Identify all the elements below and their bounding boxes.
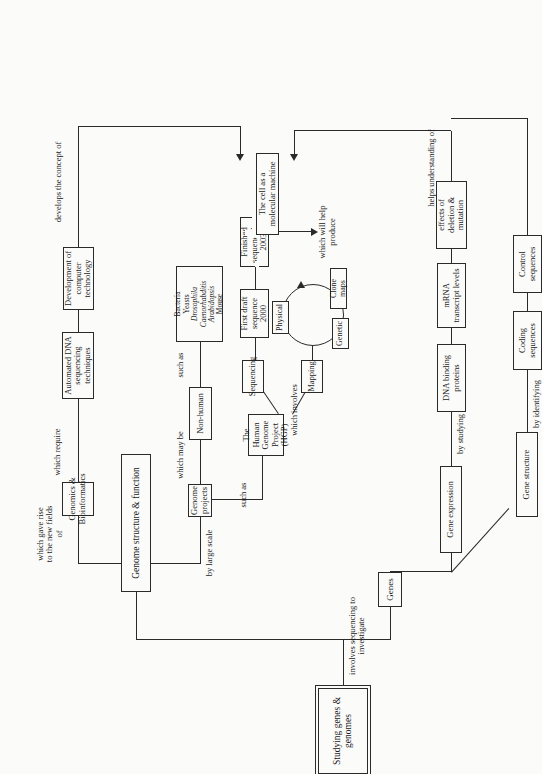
link-helps-understanding-of: helps understanding of — [427, 124, 436, 212]
node-gene-expression[interactable]: Gene expression — [440, 466, 462, 553]
edge-firstdraft-to-finished — [255, 267, 256, 289]
link-such-as-species: such as — [176, 345, 185, 385]
node-sequencing[interactable]: Sequencing — [242, 360, 264, 393]
edge-spine-to-genes — [390, 607, 391, 640]
link-which-gave-rise: which gave rise to the new fields of — [36, 504, 64, 564]
node-genomics-bioinformatics-label: Genomics & Bioinformatics — [68, 474, 87, 525]
node-genes-label: Genes — [385, 578, 395, 601]
edge-genomeprojects-to-nonhuman — [200, 440, 201, 484]
edge-expression-to-bystudying — [451, 422, 452, 466]
node-genetic-label: Genetic — [336, 321, 345, 346]
edge-deletion-to-helps — [451, 131, 452, 181]
node-mrna-transcript-levels-label: mRNA transcript levels — [442, 267, 461, 324]
node-effects-deletion-mutation-label: effects of deletion & mutation — [437, 185, 466, 245]
edge-identifying-to-coding — [527, 370, 528, 388]
link-by-studying: by studying — [456, 408, 465, 460]
node-dna-binding-proteins-label: DNA binding proteins — [442, 348, 461, 408]
node-first-draft-label: First draft sequence 2000 — [240, 293, 269, 334]
edge-require-to-automated — [78, 399, 79, 432]
node-sequencing-label: Sequencing — [248, 357, 258, 397]
node-root[interactable]: Studying genes & genomes — [318, 688, 368, 774]
edge-coding-to-control — [527, 293, 528, 311]
node-non-human-label: Non-human — [196, 393, 206, 434]
edge-spine-to-genome-structure — [136, 592, 137, 640]
arrow-develops-to-cell — [236, 154, 244, 161]
node-clone-maps[interactable]: Clone maps — [330, 268, 347, 309]
link-such-as-hgp: such as — [239, 476, 248, 514]
edge-bystudying-to-dnabinding — [451, 412, 452, 422]
edge-helps-to-cell — [294, 130, 295, 154]
node-mapping-label: Mapping — [307, 361, 317, 392]
node-genes[interactable]: Genes — [378, 572, 402, 607]
node-coding-sequences[interactable]: Coding sequences — [513, 311, 542, 370]
node-dna-binding-proteins[interactable]: DNA binding proteins — [437, 344, 466, 412]
edge-develops-down — [78, 126, 240, 127]
edge-mrna-to-deletion — [451, 249, 452, 263]
node-control-sequences[interactable]: Control sequences — [513, 235, 542, 293]
node-genome-structure-function[interactable]: Genome structure & function — [121, 454, 151, 592]
node-genomics-bioinformatics[interactable]: Genomics & Bioinformatics — [62, 482, 94, 516]
node-effects-deletion-mutation[interactable]: effects of deletion & mutation — [436, 181, 467, 249]
link-by-identifying: by identifying — [532, 376, 541, 432]
node-automated-dna-label: Automated DNA sequencing techniques — [64, 336, 93, 395]
node-hgp[interactable]: The Human Genome Project (HGP) — [248, 414, 284, 456]
node-gene-structure[interactable]: Gene structure — [516, 432, 538, 517]
edge-control-to-right — [527, 119, 528, 235]
node-genome-structure-function-label: Genome structure & function — [131, 467, 142, 579]
node-control-sequences-label: Control sequences — [518, 239, 537, 289]
arrow-circle-to-produce — [297, 281, 305, 288]
link-which-may-be: which may be — [176, 430, 185, 480]
link-which-will-help-produce: which will help produce — [318, 198, 338, 266]
node-root-label: Studying genes & genomes — [332, 692, 353, 770]
edge-computer-to-develops — [78, 127, 79, 247]
node-genetic[interactable]: Genetic — [332, 318, 349, 349]
node-computer-technology[interactable]: Development of computer technology — [63, 247, 94, 310]
node-gene-expression-label: Gene expression — [446, 481, 456, 537]
node-hgp-label: The Human Genome Project (HGP) — [242, 418, 290, 452]
node-first-draft[interactable]: First draft sequence 2000 — [240, 289, 269, 338]
node-genome-projects[interactable]: Genome projects — [188, 484, 212, 517]
edge-to-genomeprojects — [200, 517, 201, 564]
node-genome-projects-label: Genome projects — [190, 486, 209, 515]
edge-main-spine — [136, 639, 344, 640]
link-which-involves: which involves — [290, 382, 299, 438]
node-clone-maps-label: Clone maps — [330, 272, 348, 305]
node-species-list[interactable]: Bacteria Yeasts Drosophila Caenorhabditi… — [176, 266, 223, 342]
link-by-large-scale: by large scale — [205, 520, 214, 586]
edge-control-up — [451, 118, 528, 119]
node-coding-sequences-label: Coding sequences — [518, 315, 537, 366]
node-cell-as-machine-label: The cell as a molecular machine — [258, 157, 277, 231]
link-which-require: which require — [53, 428, 62, 476]
node-cell-as-machine[interactable]: The cell as a molecular machine — [256, 153, 279, 235]
edge-mapping-to-circle — [312, 346, 313, 360]
arrow-helps-to-cell — [290, 154, 298, 161]
edge-root-to-spine — [343, 640, 344, 687]
edge-genestructure-to-identifying — [527, 388, 528, 432]
edge-nonhuman-to-species — [200, 342, 201, 387]
edge-develops-to-cell — [240, 126, 241, 154]
node-gene-structure-label: Gene structure — [522, 450, 532, 500]
node-computer-technology-label: Development of computer technology — [64, 251, 93, 306]
node-physical[interactable]: Physical — [272, 301, 289, 334]
node-mapping[interactable]: Mapping — [301, 360, 323, 393]
link-involves-sequencing: involves sequencing to investigate — [348, 586, 367, 686]
node-non-human[interactable]: Non-human — [189, 387, 212, 440]
link-develops-the-concept-of: develops the concept of — [54, 130, 63, 234]
edge-to-hgp — [262, 456, 263, 500]
node-mrna-transcript-levels[interactable]: mRNA transcript levels — [437, 263, 466, 328]
node-physical-label: Physical — [276, 304, 285, 331]
node-automated-dna[interactable]: Automated DNA sequencing techniques — [62, 332, 94, 399]
edge-automated-to-computer — [78, 310, 79, 332]
node-cell-molecular-machine[interactable] — [255, 261, 259, 267]
species-item-mouse: Mouse — [216, 294, 224, 314]
edge-dnabinding-to-mrna — [451, 328, 452, 344]
